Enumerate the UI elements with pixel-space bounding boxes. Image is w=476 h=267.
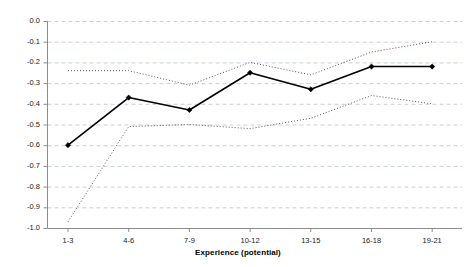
x-axis-tick-label: 19-21: [402, 236, 462, 245]
x-axis-title: Experience (potential): [0, 248, 476, 257]
x-axis-tick-label: 10-12: [220, 236, 280, 245]
x-axis-tick-label: 1-3: [38, 236, 98, 245]
x-axis-tick-label: 13-15: [281, 236, 341, 245]
x-axis-tick-label: 7-9: [159, 236, 219, 245]
chart-container: 0.0-0.1-0.2-0.3-0.4-0.5-0.6-0.7-0.8-0.9-…: [0, 0, 476, 267]
x-axis-label-group: 1-34-67-910-1213-1516-1819-21: [0, 0, 476, 267]
x-axis-tick-label: 4-6: [99, 236, 159, 245]
x-axis-tick-label: 16-18: [342, 236, 402, 245]
